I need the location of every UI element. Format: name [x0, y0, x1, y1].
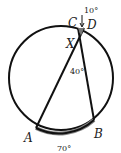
point-a-label: A	[23, 131, 33, 145]
point-x-label: X	[65, 37, 75, 51]
point-b-label: B	[93, 127, 103, 141]
angle-label: 40°	[70, 67, 84, 76]
chord-ad	[36, 28, 84, 128]
circle-diagram: 10° C D X 40° A B 70°	[0, 0, 121, 153]
arc-ab-label: 70°	[57, 144, 71, 153]
point-c-label: C	[68, 16, 77, 30]
arc-cd-label: 10°	[84, 6, 98, 15]
point-d-label: D	[86, 18, 97, 32]
